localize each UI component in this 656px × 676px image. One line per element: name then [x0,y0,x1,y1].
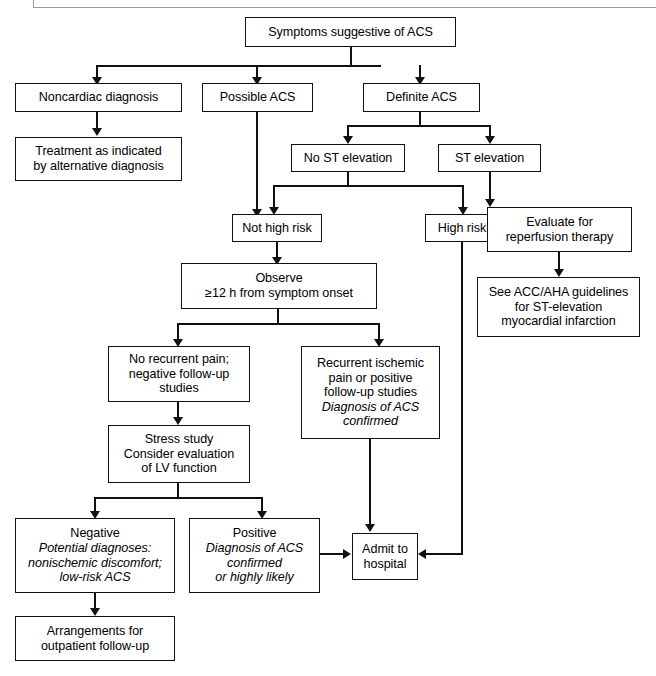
node-text-line: of LV function [124,461,234,476]
connector-st-elevation-to-evaluate [489,172,491,202]
node-not-high-risk: Not high risk [232,214,322,242]
node-text-line: Diagnosis of ACS [206,541,303,556]
node-text: Recurrent ischemicpain or positivefollow… [317,356,424,429]
node-no-st-elevation: No ST elevation [291,144,405,172]
node-recurrent-ischemic-pain: Recurrent ischemicpain or positivefollow… [301,346,440,439]
node-text-line: reperfusion therapy [506,230,614,245]
node-text-line: or highly likely [206,570,303,585]
node-text: Stress studyConsider evaluationof LV fun… [124,432,234,476]
node-text-line: Diagnosis of ACS [317,400,424,415]
arrowhead-to-no-st-elevation [343,136,353,144]
page-top-rule-tick [33,0,34,8]
node-text: Evaluate forreperfusion therapy [506,215,614,244]
node-no-recurrent-pain: No recurrent pain;negative follow-upstud… [108,346,250,402]
node-stress-study: Stress studyConsider evaluationof LV fun… [108,425,250,483]
node-text-line: low-risk ACS [28,570,162,585]
node-text-line: See ACC/AHA guidelines [489,285,629,300]
node-text-line: hospital [362,557,408,572]
node-arrangements-for-outpatient-follow-up: Arrangements foroutpatient follow-up [15,616,175,661]
node-text: Admit tohospital [362,542,408,571]
node-treatment-as-indicated: Treatment as indicatedby alternative dia… [15,137,182,181]
node-noncardiac-diagnosis: Noncardiac diagnosis [15,83,182,112]
connector-to-high-risk [462,185,464,209]
node-negative: NegativePotential diagnoses:nonischemic … [15,518,175,593]
connector-high-risk-to-admit [461,242,463,555]
connector-observe-bus [177,323,380,325]
arrowhead-to-evaluate [485,199,495,207]
node-text-line: confirmed [206,556,303,571]
node-text: ST elevation [455,151,524,166]
node-see-acc-aha-guidelines: See ACC/AHA guidelinesfor ST-elevationmy… [477,277,640,337]
arrowhead-high-risk-to-admit [418,549,426,559]
node-possible-acs: Possible ACS [202,83,313,112]
node-text-line: No recurrent pain; [129,352,230,367]
node-positive: PositiveDiagnosis of ACSconfirmedor high… [189,518,320,593]
node-text-line: myocardial infarction [489,314,629,329]
node-text-line: Symptoms suggestive of ACS [268,25,433,40]
node-text-line: Consider evaluation [124,447,234,462]
node-text-line: Observe [205,271,353,286]
node-text-line: Potential diagnoses: [28,541,162,556]
page-top-rule [33,7,656,8]
connector-high-risk-to-admit-turn [425,553,462,555]
node-text-line: follow-up studies [317,385,424,400]
connector-stress-study-bus [94,497,263,499]
connector-definite-acs-bus [348,125,491,127]
node-text: High risk [438,221,487,236]
node-text-line: ≥12 h from symptom onset [205,286,353,301]
node-definite-acs: Definite ACS [363,83,480,112]
node-st-elevation: ST elevation [438,144,541,172]
arrowhead-to-treatment [92,128,102,136]
node-text-line: studies [129,381,230,396]
node-text-line: Definite ACS [386,90,457,105]
node-text: Symptoms suggestive of ACS [268,25,433,40]
connector-no-st-elevation-bus [274,185,464,187]
node-text: See ACC/AHA guidelinesfor ST-elevationmy… [489,285,629,329]
node-text-line: No ST elevation [304,151,393,166]
node-text-line: Noncardiac diagnosis [39,90,158,105]
node-text-line: Evaluate for [506,215,614,230]
node-text-line: outpatient follow-up [41,639,149,654]
node-text: NegativePotential diagnoses:nonischemic … [28,526,162,584]
node-observe: Observe≥12 h from symptom onset [181,263,377,309]
node-text: No ST elevation [304,151,393,166]
node-text-line: Not high risk [242,221,311,236]
node-text: Not high risk [242,221,311,236]
flowchart-canvas: Symptoms suggestive of ACS Noncardiac di… [0,0,656,676]
node-text-line: Treatment as indicated [33,144,163,159]
arrowhead-recurrent-ischemic-to-admit [365,524,375,532]
node-text-line: ST elevation [455,151,524,166]
node-admit-to-hospital: Admit tohospital [352,533,418,580]
node-text-line: Possible ACS [220,90,296,105]
node-text: PositiveDiagnosis of ACSconfirmedor high… [206,526,303,584]
node-text-line: Stress study [124,432,234,447]
node-evaluate-for-reperfusion-therapy: Evaluate forreperfusion therapy [487,207,632,252]
node-text-line: nonischemic discomfort; [28,556,162,571]
node-text: Observe≥12 h from symptom onset [205,271,353,300]
arrowhead-to-acc-aha [554,269,564,277]
node-text: Noncardiac diagnosis [39,90,158,105]
arrowhead-to-st-elevation [485,136,495,144]
connector-symptoms-bus [97,65,381,67]
connector-to-not-high-risk [273,185,275,209]
node-text: Definite ACS [386,90,457,105]
node-text-line: confirmed [317,414,424,429]
node-text: Possible ACS [220,90,296,105]
connector-recurrent-ischemic-to-admit [369,439,371,528]
node-text-line: Recurrent ischemic [317,356,424,371]
node-text-line: Negative [28,526,162,541]
arrowhead-to-stress-study [173,417,183,425]
node-text: Treatment as indicatedby alternative dia… [33,144,163,173]
node-text-line: Admit to [362,542,408,557]
node-text-line: High risk [438,221,487,236]
arrowhead-to-arrangements [90,608,100,616]
node-text: No recurrent pain;negative follow-upstud… [129,352,230,396]
node-text-line: for ST-elevation [489,300,629,315]
node-text-line: Positive [206,526,303,541]
node-text: Arrangements foroutpatient follow-up [41,624,149,653]
connector-possible-acs-to-not-high-risk [256,112,258,212]
node-symptoms-suggestive-of-acs: Symptoms suggestive of ACS [245,17,456,47]
node-text-line: by alternative diagnosis [33,159,163,174]
connector-symptoms-stem [350,47,352,67]
node-text-line: pain or positive [317,371,424,386]
